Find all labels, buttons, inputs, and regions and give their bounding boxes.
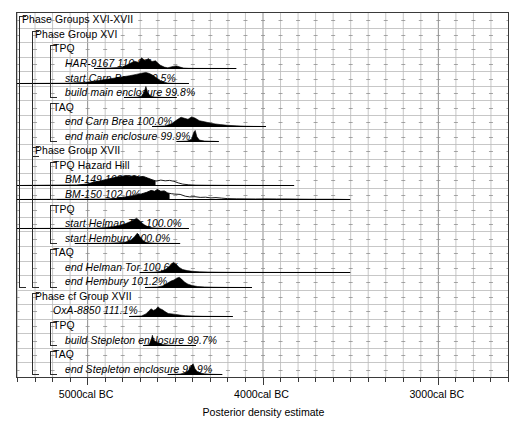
x-tick-label-2: 3000cal BC [409, 388, 464, 400]
bracket-tpq-2 [50, 205, 51, 244]
chart-row-start-helman-tor: start Helman Tor 100.0% [17, 217, 508, 232]
bracket-phase-cf-group-xvii [32, 293, 33, 375]
x-tick-minor [385, 378, 386, 382]
row-label-end-stepleton-enclosure: end Stepleton enclosure 99.9% [65, 364, 212, 375]
chart-row-phase-cf-group-xvii: Phase cf Group XVII [17, 290, 508, 305]
bracket-top-arm [33, 147, 39, 148]
bracket-tpq-3 [50, 322, 51, 346]
bracket-phase-group-xvi [32, 31, 33, 157]
x-tick-minor [315, 378, 316, 382]
chart-row-end-helman-tor: end Helman Tor 100.6% [17, 261, 508, 276]
chart-row-end-stepleton-enclosure: end Stepleton enclosure 99.9% [17, 362, 508, 377]
chart-row-har-9167: HAR-9167 110.8% [17, 57, 508, 72]
bracket-tpq-1 [50, 45, 51, 98]
bracket-bottom-arm [51, 287, 57, 288]
row-label-start-carn-brea: start Carn Brea 100.5% [65, 73, 176, 84]
bracket-bottom-arm [51, 199, 57, 200]
chart-row-end-carn-brea: end Carn Brea 100.0% [17, 115, 508, 130]
x-axis [16, 378, 509, 379]
row-label-build-main-enclosure: build main enclosure 99.8% [65, 87, 195, 98]
x-tick-minor [175, 378, 176, 382]
chart-row-tpq-3: TPQ [17, 319, 508, 334]
chart-row-phase-group-xvi: Phase Group XVI [17, 28, 508, 43]
x-tick-minor [368, 378, 369, 382]
bracket-top-arm [51, 162, 57, 163]
bracket-bottom-arm [20, 287, 26, 288]
bracket-taq-3 [50, 351, 51, 375]
row-label-start-hembury: start Hembury 100.0% [65, 233, 170, 244]
x-tick-label-1: 4000cal BC [234, 388, 289, 400]
x-tick-minor [70, 378, 71, 382]
bracket-taq-1 [50, 103, 51, 142]
chart-row-bm-150: BM-150 102.0% [17, 188, 508, 203]
plot-frame: Phase Groups XVI-XVIIPhase Group XVITPQH… [16, 12, 509, 378]
bracket-phase-group-xvii [32, 147, 33, 288]
chart-row-phase-groups-xvi-xvii: Phase Groups XVI-XVII [17, 13, 508, 28]
x-tick-minor [192, 378, 193, 382]
x-tick-minor [210, 378, 211, 382]
bracket-top-arm [33, 31, 39, 32]
x-tick-minor [403, 378, 404, 382]
bracket-top-arm [51, 103, 57, 104]
row-label-end-carn-brea: end Carn Brea 100.0% [65, 116, 173, 127]
chart-row-start-hembury: start Hembury 100.0% [17, 231, 508, 246]
row-label-har-9167: HAR-9167 110.8% [65, 58, 152, 69]
bracket-tpq-hazard-hill [50, 162, 51, 201]
bracket-top-arm [51, 351, 57, 352]
chart-row-taq-2: TAQ [17, 246, 508, 261]
x-tick-minor [105, 378, 106, 382]
bracket-bottom-arm [33, 374, 39, 375]
x-tick-minor [157, 378, 158, 382]
x-tick-minor [333, 378, 334, 382]
bracket-top-arm [51, 249, 57, 250]
chart-row-build-stepleton-enclosure: build Stepleton enclosure 99.7% [17, 333, 508, 348]
x-tick-minor [245, 378, 246, 382]
x-tick-minor [35, 378, 36, 382]
x-tick-minor [490, 378, 491, 382]
row-label-tpq-hazard-hill: TPQ Hazard Hill [53, 160, 130, 171]
bracket-top-arm [51, 322, 57, 323]
chart-row-taq-1: TAQ [17, 100, 508, 115]
chart-row-tpq-2: TPQ [17, 202, 508, 217]
x-tick-major [87, 378, 88, 385]
x-tick-minor [140, 378, 141, 382]
x-axis-title: Posterior density estimate [0, 406, 527, 418]
row-label-phase-group-xvi: Phase Group XVI [35, 29, 117, 40]
bracket-bottom-arm [33, 156, 39, 157]
x-tick-minor [17, 378, 18, 382]
bracket-bottom-arm [51, 345, 57, 346]
chart-row-taq-3: TAQ [17, 348, 508, 363]
x-tick-major [263, 378, 264, 385]
x-tick-minor [122, 378, 123, 382]
x-tick-minor [298, 378, 299, 382]
chart-row-start-carn-brea: start Carn Brea 100.5% [17, 71, 508, 86]
x-tick-minor [350, 378, 351, 382]
x-tick-minor [420, 378, 421, 382]
bracket-taq-2 [50, 249, 51, 288]
bracket-bottom-arm [51, 141, 57, 142]
row-label-end-hembury: end Hembury 101.2% [65, 277, 167, 288]
bracket-top-arm [33, 293, 39, 294]
chart-row-tpq-1: TPQ [17, 42, 508, 57]
bracket-top-arm [51, 45, 57, 46]
row-label-oxa-8850: OxA-8850 111.1% [53, 306, 138, 317]
chart-row-phase-group-xvii: Phase Group XVII [17, 144, 508, 159]
plot-area: Phase Groups XVI-XVIIPhase Group XVITPQH… [17, 13, 508, 377]
x-tick-minor [455, 378, 456, 382]
x-tick-label-0: 5000cal BC [59, 388, 114, 400]
row-label-bm-150: BM-150 102.0% [65, 189, 141, 200]
chart-row-build-main-enclosure: build main enclosure 99.8% [17, 86, 508, 101]
x-tick-minor [473, 378, 474, 382]
row-label-bm-149: BM-149 108.8% [65, 175, 141, 186]
x-tick-minor [52, 378, 53, 382]
bracket-phase-groups-xvi-xvii [19, 16, 20, 288]
row-label-end-main-enclosure: end main enclosure 99.9% [65, 131, 190, 142]
row-label-build-stepleton-enclosure: build Stepleton enclosure 99.7% [65, 335, 217, 346]
row-label-end-helman-tor: end Helman Tor 100.6% [65, 262, 179, 273]
x-tick-minor [227, 378, 228, 382]
bracket-bottom-arm [33, 287, 39, 288]
chart-canvas: Phase Groups XVI-XVIIPhase Group XVITPQH… [0, 0, 527, 425]
chart-row-end-hembury: end Hembury 101.2% [17, 275, 508, 290]
bracket-bottom-arm [51, 374, 57, 375]
chart-row-bm-149: BM-149 108.8% [17, 173, 508, 188]
